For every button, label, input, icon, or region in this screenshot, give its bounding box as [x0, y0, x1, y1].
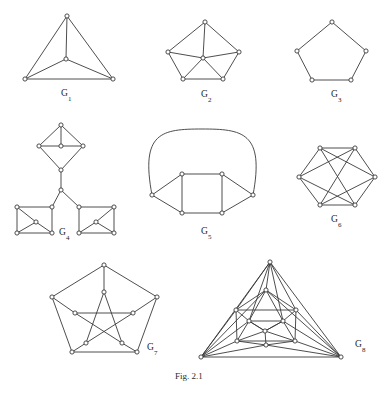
vertex-apex — [65, 14, 69, 18]
edge — [249, 321, 265, 331]
edge — [266, 290, 283, 321]
figure-container: G1G2G3G4G5G6G7G8 Fig. 2.1 — [0, 0, 391, 396]
edge — [79, 222, 96, 233]
vertex-inner-top — [102, 290, 106, 294]
edge — [133, 297, 157, 313]
graph-g1-edges — [25, 16, 113, 79]
edge — [36, 222, 52, 233]
edge — [295, 341, 341, 357]
vertex-bottom-left — [23, 77, 27, 81]
edge — [295, 310, 296, 341]
graph-label-g3: G3 — [331, 89, 342, 103]
edge — [265, 321, 283, 331]
graph-g3-edges — [297, 22, 366, 80]
edge — [61, 146, 83, 170]
edge — [17, 207, 36, 222]
edge — [299, 148, 320, 177]
vertex-left-sq-br — [50, 231, 54, 235]
vertex-outer-bottom-right — [135, 350, 139, 354]
edge — [332, 22, 366, 51]
edge — [168, 22, 205, 52]
vertex-right-outer — [251, 193, 255, 197]
edge — [66, 16, 67, 59]
vertex-left-outer — [150, 193, 154, 197]
vertex-bottom-right — [111, 77, 115, 81]
graph-g7-vertices — [50, 263, 159, 354]
vertex-rim-bottom-right — [221, 77, 225, 81]
vertex-diamond-left — [37, 144, 41, 148]
edge — [96, 222, 114, 233]
graph-label-g7: G7 — [147, 342, 158, 356]
edge — [152, 174, 182, 195]
vertex-hub — [201, 56, 205, 60]
graphs-layer: G1G2G3G4G5G6G7G8 — [15, 14, 377, 359]
edge — [222, 195, 253, 213]
graph-g6: G6 — [297, 146, 377, 228]
vertex-sq-top-left — [180, 172, 184, 176]
vertex-top-left — [318, 146, 322, 150]
vertex-inner-bottom-right — [120, 341, 124, 345]
vertex-outer-top — [102, 263, 106, 267]
vertex-bottom-right — [349, 78, 353, 82]
graph-label-g6: G6 — [331, 214, 342, 228]
vertex-diamond-bottom — [59, 168, 63, 172]
edge — [237, 331, 265, 341]
vertex-left — [295, 49, 299, 53]
vertex-right-sq-center — [94, 220, 98, 224]
edge — [104, 292, 122, 343]
graph-g2-edges — [168, 22, 239, 79]
graph-g4-edges — [17, 125, 114, 233]
edge — [299, 177, 320, 205]
vertex-top — [330, 20, 334, 24]
vertex-core-inner — [263, 329, 267, 333]
edge — [222, 174, 253, 195]
vertex-left-sq-bl — [15, 231, 19, 235]
edge — [61, 125, 83, 146]
vertex-core-mid-right — [281, 319, 285, 323]
vertex-left — [297, 175, 301, 179]
vertex-base-left — [199, 355, 203, 359]
vertex-junction — [59, 188, 63, 192]
edge — [168, 52, 203, 58]
vertex-outer-right — [155, 295, 159, 299]
edge — [39, 125, 61, 146]
edge — [236, 290, 266, 310]
vertex-left-sq-tl — [15, 205, 19, 209]
edge — [25, 16, 67, 79]
vertex-core-bot-left — [235, 339, 239, 343]
vertex-core-left — [234, 308, 238, 312]
vertex-right-sq-tr — [112, 205, 116, 209]
edge — [96, 207, 114, 222]
graph-g4: G4 — [15, 123, 116, 241]
vertex-right — [373, 175, 377, 179]
graph-g5-vertices — [150, 172, 255, 215]
edge — [52, 297, 75, 313]
edge — [205, 22, 239, 52]
edge — [203, 52, 239, 58]
edge — [86, 292, 104, 343]
vertex-core-right — [294, 308, 298, 312]
figure-caption: Fig. 2.1 — [175, 371, 203, 381]
edge — [61, 190, 79, 207]
vertex-sq-top-right — [220, 172, 224, 176]
edge — [355, 177, 375, 205]
edge — [104, 265, 157, 297]
graph-label-g8: G8 — [355, 339, 366, 353]
edge — [237, 321, 249, 341]
edge — [203, 58, 223, 79]
graph-g7: G7 — [50, 263, 159, 356]
graph-label-g2: G2 — [201, 89, 212, 103]
vertex-rim-left — [166, 50, 170, 54]
vertex-apex — [268, 260, 272, 264]
edge — [39, 146, 61, 170]
edge — [236, 310, 237, 341]
vertex-center — [64, 57, 68, 61]
edge-arc — [149, 129, 256, 195]
vertex-sq-bottom-left — [180, 211, 184, 215]
vertex-inner-left — [73, 311, 77, 315]
edge — [152, 195, 182, 213]
edge — [17, 222, 36, 233]
edge — [52, 190, 61, 207]
vertex-inner-right — [131, 311, 135, 315]
vertex-outer-left — [50, 295, 54, 299]
